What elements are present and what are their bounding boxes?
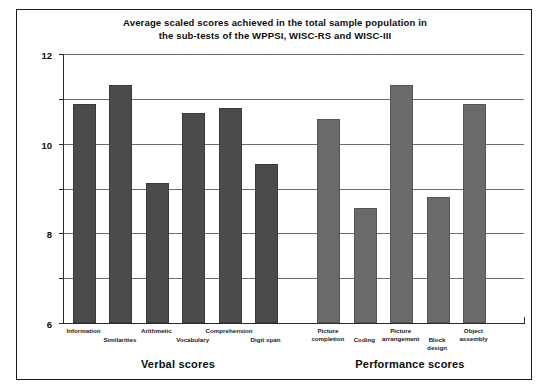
x-label-digit-span: Digit span [232, 336, 300, 344]
bar-coding [354, 208, 377, 323]
y-tick-mark-6: 6 [59, 189, 64, 190]
y-tick-mark-10: 10 [59, 99, 64, 100]
x-label-comprehension: Comprehension [195, 327, 263, 335]
x-axis-endcap [524, 317, 525, 324]
plot-area: 024681012 [63, 54, 524, 324]
y-tick-mark-2: 2 [59, 278, 64, 279]
y-tick-mark-12: 12 [59, 54, 64, 55]
gridline-4 [64, 233, 524, 234]
bar-digit-span [255, 164, 278, 323]
y-tick-label-10: 10 [41, 139, 52, 150]
x-label-information: Information [50, 327, 118, 335]
y-tick-mark-4: 4 [59, 233, 64, 234]
bar-picture-completion [317, 119, 340, 323]
y-tick-mark-0: 0 [59, 323, 64, 324]
group-label-verbal: Verbal scores [63, 358, 293, 370]
bar-block-design [427, 197, 450, 323]
bar-picture-arrangement [390, 85, 413, 323]
x-label-similarities: Similarities [86, 336, 154, 344]
chart-title-line-1: Average scaled scores achieved in the to… [17, 16, 532, 29]
bar-information [73, 104, 96, 323]
x-label-vocabulary: Vocabulary [159, 336, 227, 344]
group-label-performance: Performance scores [297, 358, 523, 370]
chart-title-line-2: the sub-tests of the WPPSI, WISC-RS and … [17, 29, 532, 42]
gridline-8 [64, 144, 524, 145]
bar-comprehension [219, 108, 242, 323]
y-tick-label-8: 8 [47, 229, 52, 240]
chart-title: Average scaled scores achieved in the to… [17, 16, 532, 42]
y-tick-label-12: 12 [41, 50, 52, 61]
gridline-10 [64, 99, 524, 100]
gridline-2 [64, 278, 524, 279]
bar-vocabulary [182, 113, 205, 323]
gridline-12 [64, 54, 524, 55]
gridline-6 [64, 189, 524, 190]
x-label-object-assembly: Objectassembly [440, 327, 508, 342]
bar-similarities [109, 85, 132, 323]
y-tick-mark-8: 8 [59, 144, 64, 145]
bar-object-assembly [463, 104, 486, 323]
chart-figure: Average scaled scores achieved in the to… [16, 9, 532, 380]
x-label-arithmetic: Arithmetic [122, 327, 190, 335]
bar-arithmetic [146, 183, 169, 323]
